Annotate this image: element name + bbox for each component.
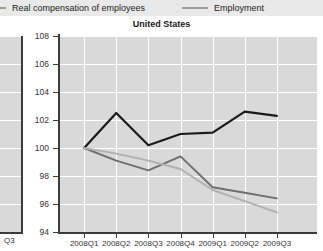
legend-item-employment[interactable]: Employment bbox=[182, 0, 264, 16]
y-axis-label: 94 bbox=[40, 227, 49, 237]
y-axis-label: 104 bbox=[35, 87, 49, 97]
adjacent-chart-tick-label: Q3 bbox=[4, 236, 15, 245]
x-axis-tick bbox=[213, 234, 214, 238]
y-axis-label: 96 bbox=[40, 199, 49, 209]
gridline-horizontal bbox=[0, 148, 21, 149]
y-axis-tick bbox=[53, 92, 58, 93]
gridline-horizontal bbox=[0, 120, 21, 121]
y-axis-label: 108 bbox=[35, 31, 49, 41]
y-axis-tick bbox=[53, 120, 58, 121]
x-axis-tick bbox=[148, 234, 149, 238]
gridline-horizontal bbox=[0, 64, 21, 65]
y-axis-tick bbox=[53, 232, 58, 233]
gridline-horizontal bbox=[0, 204, 21, 205]
gridline-horizontal bbox=[0, 92, 21, 93]
legend-line-swatch-employment bbox=[182, 7, 208, 9]
gridline-horizontal bbox=[0, 36, 21, 37]
y-axis-label: 100 bbox=[35, 143, 49, 153]
series-layer bbox=[60, 36, 317, 232]
x-axis-tick bbox=[84, 234, 85, 238]
x-axis-tick bbox=[181, 234, 182, 238]
x-axis-label: 2008Q1 bbox=[70, 239, 98, 248]
x-axis-label: 2008Q3 bbox=[134, 239, 162, 248]
legend-label-real-compensation: Real compensation of employees bbox=[12, 0, 145, 16]
chart-page: Real compensation of employees Employmen… bbox=[0, 0, 323, 251]
y-axis-tick bbox=[53, 36, 58, 37]
x-axis-tick bbox=[277, 234, 278, 238]
x-axis-tick bbox=[245, 234, 246, 238]
chart-legend: Real compensation of employees Employmen… bbox=[0, 0, 323, 16]
x-axis bbox=[58, 232, 317, 234]
x-axis-tick bbox=[116, 234, 117, 238]
chart-title: United States bbox=[0, 19, 323, 29]
y-axis-label: 102 bbox=[35, 115, 49, 125]
legend-label-employment: Employment bbox=[214, 0, 264, 16]
y-axis-tick bbox=[53, 148, 58, 149]
series-line-gdp bbox=[84, 112, 277, 148]
x-axis-label: 2009Q2 bbox=[231, 239, 259, 248]
y-axis-label: 98 bbox=[40, 171, 49, 181]
x-axis-label: 2008Q4 bbox=[166, 239, 194, 248]
x-axis-label: 2009Q1 bbox=[198, 239, 226, 248]
x-axis-label: 2008Q2 bbox=[102, 239, 130, 248]
adjacent-chart-x-axis bbox=[0, 232, 23, 234]
y-axis-tick bbox=[53, 64, 58, 65]
y-axis-tick bbox=[53, 176, 58, 177]
y-axis-tick bbox=[53, 204, 58, 205]
series-line-real-compensation-of-employees bbox=[84, 148, 277, 198]
legend-line-swatch-real-compensation bbox=[0, 7, 6, 9]
gridline-horizontal bbox=[0, 176, 21, 177]
y-axis-label: 106 bbox=[35, 59, 49, 69]
legend-item-real-compensation[interactable]: Real compensation of employees bbox=[0, 0, 145, 16]
x-axis-label: 2009Q3 bbox=[263, 239, 291, 248]
adjacent-chart-panel-clipped bbox=[0, 36, 23, 232]
